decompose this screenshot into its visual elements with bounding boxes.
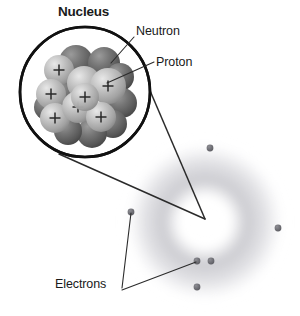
electron-right <box>275 225 282 232</box>
label-nucleus: Nucleus <box>58 5 109 19</box>
electron-bottom <box>194 284 201 291</box>
atom-diagram-figure: Nucleus Neutron Proton Electrons <box>0 0 300 316</box>
electron-bottom-mid <box>208 258 215 265</box>
diagram-canvas <box>0 0 300 316</box>
electron-top <box>207 145 214 152</box>
electron-cloud <box>125 142 285 302</box>
electron-bottom-left <box>194 258 201 265</box>
proton-sphere <box>71 83 99 111</box>
label-proton: Proton <box>156 56 192 69</box>
label-neutron: Neutron <box>136 25 180 38</box>
label-electrons: Electrons <box>55 278 106 291</box>
